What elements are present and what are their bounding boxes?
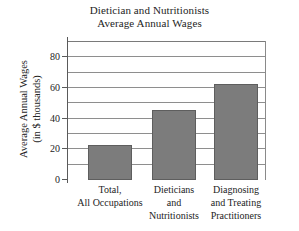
chart-title: Dietician and Nutritionists Average Annu… (0, 4, 299, 30)
gridline-70 (67, 72, 266, 73)
x-label-line-2: and Treating (191, 196, 281, 209)
chart-title-line-1: Dietician and Nutritionists (0, 4, 299, 17)
bar-diagnosing-and-treating-practitioners (214, 84, 258, 180)
bar-total-all-occupations (88, 145, 132, 180)
x-label-line-3: Practitioners (191, 209, 281, 222)
y-tick-label-20: 20 (50, 143, 60, 154)
gridline-90 (67, 41, 266, 42)
y-tick-80 (62, 56, 67, 57)
y-tick-0 (62, 179, 67, 180)
plot-right-border (265, 41, 266, 180)
y-axis-line (67, 37, 68, 183)
plot-area: 80 60 40 20 0 (67, 41, 266, 179)
chart-title-line-2: Average Annual Wages (0, 17, 299, 30)
y-tick-20 (62, 148, 67, 149)
x-label-diagnosing-and-treating-practitioners: Diagnosing and Treating Practitioners (191, 183, 281, 222)
y-axis-title: Average Annual Wages (in $ thousands) (16, 38, 44, 180)
bar-chart: Dietician and Nutritionists Average Annu… (0, 0, 299, 231)
gridline-80 (67, 56, 266, 57)
y-tick-label-60: 60 (50, 82, 60, 93)
y-axis-title-line-2: (in $ thousands) (30, 60, 43, 158)
x-axis-labels: Total, All Occupations Dieticians and Nu… (67, 183, 266, 227)
y-tick-label-40: 40 (50, 113, 60, 124)
y-tick-60 (62, 87, 67, 88)
bar-dieticians-and-nutritionists (152, 110, 196, 180)
y-tick-40 (62, 118, 67, 119)
y-axis-title-line-1: Average Annual Wages (17, 60, 30, 158)
y-tick-label-80: 80 (50, 51, 60, 62)
x-label-line-1: Diagnosing (191, 183, 281, 196)
